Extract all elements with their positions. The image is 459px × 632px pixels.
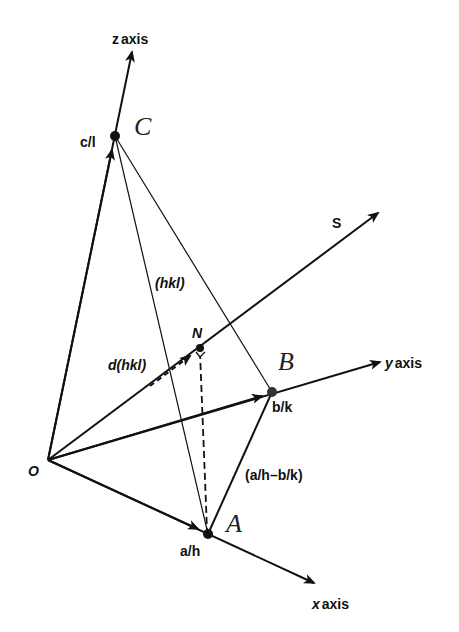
origin-label: O <box>28 463 39 479</box>
right-angle-marker <box>196 352 205 357</box>
point-N-label: N <box>192 325 203 341</box>
s-vector-line <box>48 213 378 460</box>
point-B <box>267 387 277 397</box>
lattice-plane-diagram: zaxis yaxis xaxis S d(hkl) (hkl) (a/h–b/… <box>0 0 459 632</box>
edge-CB <box>115 136 272 392</box>
c-over-l-label: c/l <box>80 134 96 150</box>
z-axis-label: zaxis <box>112 31 148 47</box>
point-B-label: B <box>278 347 294 376</box>
d-hkl-label: d(hkl) <box>108 357 146 373</box>
y-axis-label: yaxis <box>384 355 422 371</box>
vector-OC <box>48 150 112 460</box>
point-C <box>110 131 120 141</box>
x-axis-label: xaxis <box>311 596 349 612</box>
a-over-h-label: a/h <box>180 543 200 559</box>
edge-ab-label: (a/h–b/k) <box>245 467 303 483</box>
point-N <box>196 344 204 352</box>
point-C-label: C <box>134 112 152 141</box>
plane-hkl-label: (hkl) <box>155 275 185 291</box>
s-vector-label: S <box>332 215 341 231</box>
vector-OB <box>48 396 262 460</box>
b-over-k-label: b/k <box>272 399 292 415</box>
point-A <box>203 529 213 539</box>
vector-OA <box>48 460 198 529</box>
point-A-label: A <box>224 509 242 538</box>
